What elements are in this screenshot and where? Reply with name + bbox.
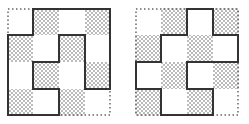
shaded-cell [33, 62, 59, 89]
shaded-cell [213, 8, 239, 35]
shaded-cell [161, 62, 187, 89]
shaded-cell [59, 89, 85, 116]
left-grid-panel [7, 8, 111, 116]
shaded-cell [187, 89, 213, 116]
shaded-cell [135, 35, 161, 62]
shaded-cell [7, 89, 33, 116]
shaded-cell [213, 62, 239, 89]
right-grid-panel [135, 8, 239, 116]
shaded-cell [59, 35, 85, 62]
right-grid-diagram [135, 8, 239, 116]
shaded-cell [85, 62, 111, 89]
shaded-cell [187, 35, 213, 62]
shaded-cell [135, 89, 161, 116]
shaded-cell [161, 8, 187, 35]
shaded-cell [7, 35, 33, 62]
shaded-cell [85, 8, 111, 35]
left-grid-diagram [7, 8, 111, 116]
shaded-cell [33, 8, 59, 35]
